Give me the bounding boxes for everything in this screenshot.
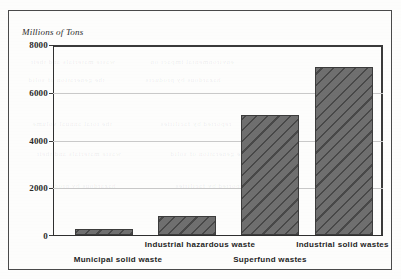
- bar-industrial-solid-wastes[interactable]: [315, 67, 373, 235]
- plot-area: [53, 45, 383, 236]
- figure-canvas: waste materials and their environmental …: [0, 0, 401, 279]
- tick-mark-2000: [49, 188, 53, 189]
- x-label-industrial-solid-wastes: Industrial solid wastes: [285, 240, 400, 249]
- x-label-industrial-hazardous-waste: Industrial hazardous waste: [120, 240, 280, 249]
- tick-mark-0: [49, 235, 53, 236]
- bar-industrial-hazardous-waste[interactable]: [158, 216, 216, 235]
- bar-municipal-solid-waste[interactable]: [75, 229, 133, 235]
- tick-mark-8000: [49, 45, 53, 46]
- x-axis-line: [53, 235, 383, 236]
- plot-border-top: [53, 45, 383, 47]
- x-label-municipal-solid-waste: Municipal solid waste: [58, 255, 178, 264]
- tick-mark-6000: [49, 93, 53, 94]
- x-label-superfund-wastes: Superfund wastes: [215, 255, 325, 264]
- tick-mark-4000: [49, 141, 53, 142]
- y-axis-title: Millions of Tons: [22, 27, 83, 37]
- bar-superfund-wastes[interactable]: [241, 115, 299, 235]
